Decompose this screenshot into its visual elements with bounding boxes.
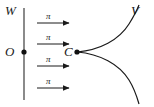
- label-O: O: [5, 45, 14, 58]
- arrow-label-pi-4: π: [46, 77, 51, 86]
- curve-V-lower-branch: [77, 52, 139, 104]
- curve-V-upper-branch: [77, 5, 139, 52]
- label-V: V: [131, 4, 139, 17]
- arrow-label-pi-2: π: [46, 33, 51, 42]
- point-O-dot: [21, 49, 26, 54]
- point-C-dot: [74, 49, 79, 54]
- label-C: C: [64, 45, 73, 58]
- figure-container: W O C V π π π π: [0, 0, 154, 107]
- arrow-label-pi-1: π: [46, 12, 51, 21]
- label-W: W: [5, 4, 16, 17]
- arrow-label-pi-3: π: [46, 55, 51, 64]
